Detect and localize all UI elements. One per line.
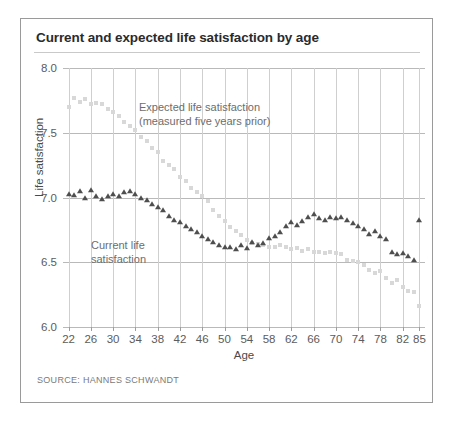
data-point-series-1 — [383, 236, 389, 241]
data-point-series-0 — [67, 105, 71, 109]
data-point-series-0 — [334, 251, 338, 255]
gridline-vertical — [291, 68, 292, 327]
data-point-series-0 — [83, 97, 87, 101]
x-tick-label: 78 — [374, 333, 387, 345]
x-tick-mark — [69, 327, 70, 331]
data-point-series-0 — [167, 163, 171, 167]
x-tick-mark — [269, 327, 270, 331]
plot-wrapper: Life satisfaction 6.06.57.07.58.02226303… — [21, 19, 434, 404]
data-point-series-0 — [306, 247, 310, 251]
y-tick-label: 6.0 — [41, 321, 57, 333]
x-tick-label: 82 — [396, 333, 409, 345]
gridline-vertical — [358, 68, 359, 327]
annotation-expected-line2: (measured five years prior) — [139, 115, 270, 129]
data-point-series-0 — [267, 245, 271, 249]
data-point-series-1 — [416, 217, 422, 222]
gridline-vertical — [113, 68, 114, 327]
data-point-series-0 — [200, 194, 204, 198]
gridline-vertical — [419, 68, 420, 327]
data-point-series-0 — [323, 251, 327, 255]
data-point-series-0 — [228, 225, 232, 229]
x-tick-mark — [91, 327, 92, 331]
data-point-series-0 — [312, 250, 316, 254]
x-tick-label: 42 — [174, 333, 187, 345]
data-point-series-0 — [401, 285, 405, 289]
x-tick-label: 85 — [413, 333, 426, 345]
annotation-expected-series: Expected life satisfaction (measured fiv… — [139, 101, 270, 128]
data-point-series-0 — [100, 102, 104, 106]
data-point-series-0 — [345, 258, 349, 262]
data-point-series-0 — [300, 249, 304, 253]
data-point-series-1 — [260, 240, 266, 245]
data-point-series-0 — [356, 260, 360, 264]
x-tick-mark — [113, 327, 114, 331]
gridline-vertical — [91, 68, 92, 327]
data-point-series-0 — [172, 167, 176, 171]
x-tick-mark — [419, 327, 420, 331]
x-tick-label: 74 — [352, 333, 365, 345]
data-point-series-1 — [244, 245, 250, 250]
x-tick-label: 46 — [196, 333, 209, 345]
x-tick-mark — [291, 327, 292, 331]
x-tick-mark — [158, 327, 159, 331]
data-point-series-0 — [367, 268, 371, 272]
data-point-series-0 — [189, 186, 193, 190]
data-point-series-0 — [117, 114, 121, 118]
y-tick-label: 6.5 — [41, 256, 57, 268]
x-tick-label: 38 — [151, 333, 164, 345]
x-tick-mark — [358, 327, 359, 331]
data-point-series-0 — [328, 250, 332, 254]
data-point-series-0 — [384, 276, 388, 280]
data-point-series-0 — [362, 263, 366, 267]
x-tick-mark — [336, 327, 337, 331]
x-tick-label: 70 — [329, 333, 342, 345]
gridline-vertical — [380, 68, 381, 327]
data-point-series-0 — [89, 102, 93, 106]
data-point-series-0 — [351, 259, 355, 263]
annotation-current-line2: satisfaction — [91, 253, 146, 267]
data-point-series-0 — [206, 199, 210, 203]
annotation-expected-line1: Expected life satisfaction — [139, 101, 270, 115]
data-point-series-0 — [72, 96, 76, 100]
data-point-series-0 — [184, 179, 188, 183]
x-tick-label: 54 — [240, 333, 253, 345]
data-point-series-0 — [417, 304, 421, 308]
gridline-horizontal — [63, 68, 425, 69]
data-point-series-0 — [239, 233, 243, 237]
x-tick-label: 66 — [307, 333, 320, 345]
x-tick-mark — [247, 327, 248, 331]
x-tick-mark — [380, 327, 381, 331]
data-point-series-0 — [223, 219, 227, 223]
data-point-series-0 — [234, 229, 238, 233]
data-point-series-0 — [273, 245, 277, 249]
x-tick-label: 50 — [218, 333, 231, 345]
data-point-series-0 — [94, 101, 98, 105]
x-axis-title: Age — [63, 349, 425, 361]
annotation-current-line1: Current life — [91, 239, 146, 253]
data-point-series-0 — [178, 175, 182, 179]
gridline-vertical — [314, 68, 315, 327]
x-tick-mark — [180, 327, 181, 331]
data-point-series-0 — [133, 128, 137, 132]
data-point-series-0 — [111, 110, 115, 114]
x-tick-mark — [403, 327, 404, 331]
data-point-series-0 — [211, 208, 215, 212]
data-point-series-0 — [156, 150, 160, 154]
gridline-vertical — [336, 68, 337, 327]
data-point-series-0 — [217, 214, 221, 218]
data-point-series-0 — [390, 281, 394, 285]
data-point-series-0 — [161, 159, 165, 163]
data-point-series-0 — [106, 107, 110, 111]
data-point-series-1 — [82, 195, 88, 200]
x-tick-mark — [314, 327, 315, 331]
gridline-vertical — [135, 68, 136, 327]
data-point-series-1 — [411, 257, 417, 262]
data-point-series-0 — [378, 269, 382, 273]
data-point-series-0 — [139, 135, 143, 139]
data-point-series-1 — [88, 187, 94, 192]
data-point-series-0 — [289, 247, 293, 251]
data-point-series-0 — [412, 290, 416, 294]
x-tick-mark — [202, 327, 203, 331]
x-tick-label: 34 — [129, 333, 142, 345]
annotation-current-series: Current life satisfaction — [91, 239, 146, 266]
